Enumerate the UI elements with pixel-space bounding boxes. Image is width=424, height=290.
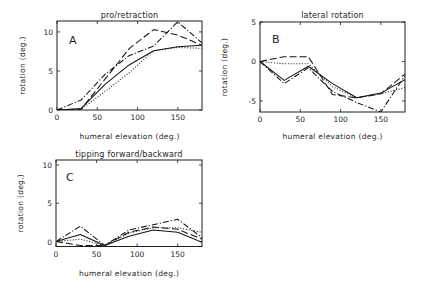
y-axis-label: rotation (deg.) (220, 38, 229, 97)
y-tick-label: 0 (251, 57, 256, 66)
axes-frame (260, 22, 405, 112)
x-tick-label: 50 (92, 250, 102, 259)
plot-area (57, 22, 202, 110)
x-tick-label: 0 (55, 113, 60, 122)
panel-title: pro/retraction (101, 11, 159, 20)
panel-a: pro/retraction0501001500510Ahumeral elev… (18, 11, 202, 141)
y-tick-label: -5 (249, 97, 257, 106)
figure: pro/retraction0501001500510Ahumeral elev… (0, 0, 424, 290)
panel-letter: C (66, 171, 74, 184)
x-tick-label: 100 (130, 113, 145, 122)
axes-frame (57, 21, 202, 110)
y-tick-label: 0 (47, 238, 52, 247)
x-tick-label: 0 (54, 250, 59, 259)
panel-b: lateral rotation050100150-505Bhumeral el… (220, 11, 405, 141)
x-tick-label: 100 (333, 115, 348, 124)
panel-title: lateral rotation (301, 11, 364, 20)
y-tick-label: 5 (47, 199, 52, 208)
x-tick-label: 50 (93, 113, 103, 122)
y-axis-label: rotation (deg.) (18, 36, 27, 95)
panel-letter: B (272, 33, 280, 46)
plot-area (260, 57, 405, 112)
x-tick-label: 150 (374, 115, 389, 124)
x-tick-label: 150 (171, 113, 186, 122)
y-tick-label: 0 (48, 106, 53, 115)
x-axis-label: humeral elevation (deg.) (79, 132, 179, 141)
x-tick-label: 150 (171, 250, 186, 259)
panel-c: tipping forward/backward0501001500510Chu… (16, 150, 202, 278)
x-axis-label: humeral elevation (deg.) (79, 269, 179, 278)
panel-letter: A (69, 34, 77, 47)
x-tick-label: 100 (130, 250, 145, 259)
series-line-dashed (57, 30, 202, 110)
plot-area (56, 219, 202, 245)
x-axis-label: humeral elevation (deg.) (282, 132, 382, 141)
y-tick-label: 10 (43, 28, 53, 37)
x-tick-label: 50 (296, 115, 306, 124)
series-line-dash-dot (57, 22, 202, 110)
y-tick-label: 5 (251, 18, 256, 27)
y-axis-label: rotation (deg.) (16, 174, 25, 233)
x-tick-label: 0 (258, 115, 263, 124)
y-tick-label: 10 (42, 161, 52, 170)
panel-title: tipping forward/backward (75, 150, 182, 159)
y-tick-label: 5 (48, 67, 53, 76)
